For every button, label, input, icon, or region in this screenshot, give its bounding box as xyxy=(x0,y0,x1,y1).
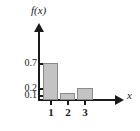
x-tick-mark-1 xyxy=(67,101,69,105)
x-axis-arrow-icon xyxy=(115,95,124,105)
y-tick-label-0: 0.7 xyxy=(13,58,37,68)
x-axis-title: x xyxy=(127,89,132,101)
y-axis-arrow-icon xyxy=(34,23,44,32)
x-tick-label-2: 3 xyxy=(78,106,92,118)
bar-1 xyxy=(43,63,58,100)
x-tick-mark-2 xyxy=(84,101,86,105)
bar-3 xyxy=(77,88,93,100)
y-axis-title: f(x) xyxy=(31,4,46,16)
bar-2 xyxy=(60,93,75,100)
x-tick-label-0: 1 xyxy=(44,106,58,118)
probability-histogram-figure: f(x) x 0.7 0.2 0.1 1 2 3 xyxy=(0,0,140,131)
y-tick-label-2: 0.1 xyxy=(13,90,37,100)
x-tick-label-1: 2 xyxy=(61,106,75,118)
x-tick-mark-0 xyxy=(50,101,52,105)
